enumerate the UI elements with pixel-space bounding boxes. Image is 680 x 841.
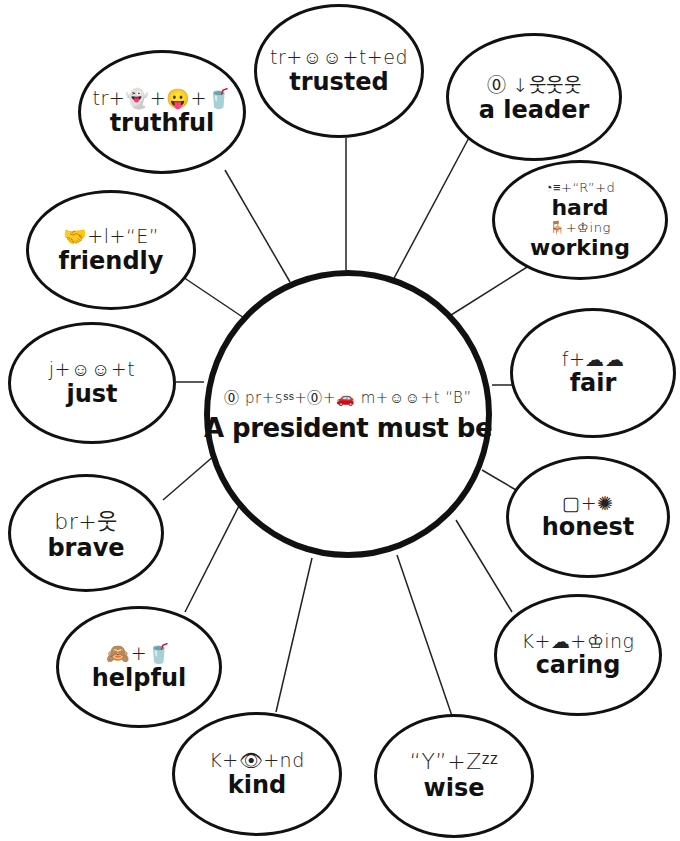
rebus-symbols: 🤝+l+“E” <box>63 225 159 248</box>
rebus-symbols: ◔≡+“R”+d <box>545 180 616 195</box>
rebus-symbols: “Y”+Zᶻᶻ <box>409 749 498 775</box>
bubble-kind: K+👁+nd kind <box>172 712 342 836</box>
rebus-symbols: K+☁+♔ing <box>521 630 634 652</box>
center-title: A president must be <box>204 413 492 443</box>
bubble-friendly: 🤝+l+“E” friendly <box>26 190 196 310</box>
bubble-label: helpful <box>92 665 187 693</box>
rebus-symbols: K+👁+nd <box>209 749 304 772</box>
rebus-symbols: f+☁☁ <box>562 348 625 370</box>
bubble-label: trusted <box>289 69 389 97</box>
rebus-symbols: 🙈+🥤 <box>106 642 171 665</box>
connector-kind <box>276 558 312 712</box>
bubble-wise: “Y”+Zᶻᶻ wise <box>374 714 534 838</box>
connector-a-leader <box>392 132 472 282</box>
bubble-label: brave <box>47 535 124 563</box>
bubble-truthful: tr+👻+😛+🥤 truthful <box>78 50 246 174</box>
bubble-label: fair <box>570 370 617 398</box>
connector-truthful <box>225 170 290 282</box>
bubble-label: honest <box>542 514 635 542</box>
bubble-label: hard <box>551 195 608 220</box>
center-rebus-symbols: ⓪ pr+sˢˢ+⓪+🚗 m+☺☺+t “B” <box>224 386 471 407</box>
bubble-label: caring <box>536 652 621 680</box>
bubble-label: wise <box>424 775 485 803</box>
bubble-trusted: tr+☺☺+t+ed trusted <box>254 4 424 138</box>
connector-helpful <box>185 500 242 612</box>
rebus-symbols: j+☺☺+t <box>49 358 135 381</box>
bubble-label: a leader <box>479 97 590 125</box>
bubble-hard-working: ◔≡+“R”+d hard 🪑+♔ing working <box>492 160 668 280</box>
connector-honest <box>482 470 516 490</box>
bubble-label: friendly <box>59 248 164 276</box>
rebus-symbols-2: 🪑+♔ing <box>549 220 611 235</box>
connector-hard-working <box>440 262 535 322</box>
bubble-brave: br+웃 brave <box>8 474 164 592</box>
bubble-label-2: working <box>530 235 630 260</box>
bubble-label: kind <box>228 772 286 800</box>
connector-brave <box>163 455 215 500</box>
rebus-symbols: ⓪ ↓웃웃웃 <box>487 70 582 97</box>
rebus-symbols: br+웃 <box>54 503 117 535</box>
bubble-a-leader: ⓪ ↓웃웃웃 a leader <box>446 33 622 161</box>
connector-caring <box>456 520 512 612</box>
rebus-symbols: tr+☺☺+t+ed <box>270 46 408 69</box>
bubble-fair: f+☁☁ fair <box>510 308 676 438</box>
bubble-helpful: 🙈+🥤 helpful <box>56 606 222 728</box>
connector-friendly <box>180 275 250 322</box>
bubble-label: truthful <box>110 110 215 138</box>
bubble-just: j+☺☺+t just <box>8 322 176 444</box>
bubble-caring: K+☁+♔ing caring <box>494 594 662 716</box>
bubble-honest: ▢+✺ honest <box>506 456 670 578</box>
connector-wise <box>397 555 452 716</box>
bubble-label: just <box>66 381 117 409</box>
center-circle: ⓪ pr+sˢˢ+⓪+🚗 m+☺☺+t “B” A president must… <box>204 270 492 558</box>
rebus-symbols: tr+👻+😛+🥤 <box>92 87 231 110</box>
rebus-symbols: ▢+✺ <box>562 492 613 514</box>
